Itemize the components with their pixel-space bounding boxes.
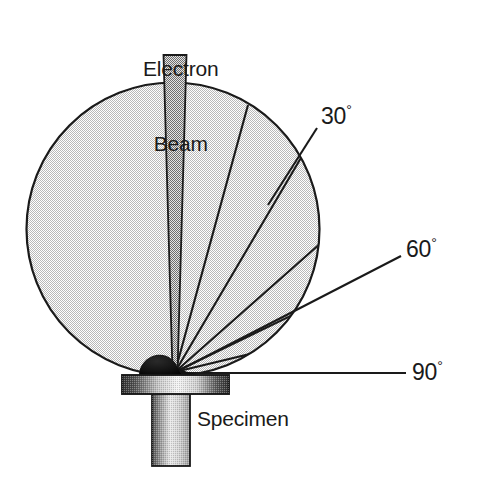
sem-takeoff-angle-diagram: Electron Beam 30° 60° 90° Specimen	[0, 0, 491, 486]
takeoff-angle-90-label: 90°	[412, 359, 443, 385]
degree-symbol-icon: °	[346, 102, 352, 118]
takeoff-angle-30-value: 30	[321, 103, 346, 129]
electron-beam-label-line2: Beam	[143, 131, 218, 156]
degree-symbol-icon: °	[431, 235, 437, 251]
takeoff-angle-30-label: 30°	[321, 103, 352, 129]
takeoff-angle-60-label: 60°	[406, 236, 437, 262]
electron-beam-label-line1: Electron	[143, 56, 218, 81]
degree-symbol-icon: °	[437, 358, 443, 374]
electron-beam-label: Electron Beam	[143, 6, 218, 206]
takeoff-angle-90-value: 90	[412, 359, 437, 385]
takeoff-angle-60-value: 60	[406, 236, 431, 262]
specimen-label: Specimen	[197, 407, 289, 431]
specimen-stub-plate-dither	[122, 375, 229, 394]
specimen-stub-stem-dither	[152, 392, 190, 466]
